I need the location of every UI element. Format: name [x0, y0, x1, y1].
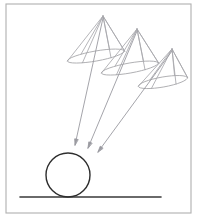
ray-right-arrowhead [98, 146, 103, 152]
ray-left-arrowhead [75, 139, 78, 145]
ball-group [46, 153, 90, 197]
ray-middle-arrowhead [88, 142, 92, 148]
ray-right [98, 51, 172, 152]
ball-circle [46, 153, 90, 197]
ray-right-shaft [98, 51, 172, 152]
cone-middle [101, 29, 160, 78]
cone-middle-generator-line [116, 29, 137, 75]
rays-group [75, 18, 172, 152]
drawing-frame [6, 4, 191, 213]
cone-left-generator-line [67, 16, 103, 61]
cone-left-generator-line [82, 16, 103, 63]
cone-left-generator-line [81, 16, 103, 54]
frame-group [6, 4, 191, 213]
diagram-canvas [0, 0, 197, 217]
cone-middle-generator-line [115, 29, 137, 66]
cone-middle-base-ellipse [101, 58, 160, 78]
cone-right-base-ellipse [138, 73, 189, 92]
diagram-svg [0, 0, 197, 217]
cone-left [67, 16, 126, 66]
ray-left-shaft [75, 18, 103, 145]
cone-right-generator-line [150, 49, 172, 80]
ray-left [75, 18, 103, 145]
ray-middle [88, 31, 137, 148]
ray-middle-shaft [88, 31, 137, 148]
